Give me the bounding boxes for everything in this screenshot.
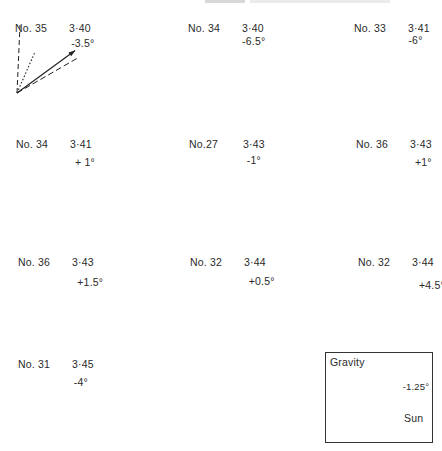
deviation-label: -6.5° xyxy=(242,35,265,47)
bee-number-label: No. 36 xyxy=(18,256,50,268)
deviation-label: -1° xyxy=(247,154,261,166)
time-label: 3·40 xyxy=(242,22,264,34)
arrowhead-icon xyxy=(68,51,75,57)
legend-box xyxy=(325,352,433,443)
bee-number-label: No. 35 xyxy=(15,22,47,34)
deviation-label: +0.5° xyxy=(249,275,275,287)
bee-number-label: No. 34 xyxy=(16,138,48,150)
bee-number-label: No. 32 xyxy=(190,256,222,268)
time-label: 3·44 xyxy=(412,256,434,268)
deviation-label: + 1° xyxy=(75,156,95,168)
time-label: 3·43 xyxy=(410,138,432,150)
time-label: 3·43 xyxy=(72,256,94,268)
deviation-label: -4° xyxy=(74,376,88,388)
page-bleed-mark xyxy=(250,0,390,3)
time-label: 3·43 xyxy=(243,138,265,150)
deviation-label: +1.5° xyxy=(77,276,103,288)
bee-number-label: No. 33 xyxy=(354,22,386,34)
deviation-label: -6° xyxy=(408,34,422,46)
deviation-label: +1° xyxy=(415,156,432,168)
time-label: 3·45 xyxy=(72,358,94,370)
deviation-label: -3.5° xyxy=(71,37,94,49)
page-bleed-mark xyxy=(205,0,245,3)
bee-number-label: No. 32 xyxy=(358,256,390,268)
time-label: 3·41 xyxy=(70,138,92,150)
bee-number-label: No. 36 xyxy=(356,138,388,150)
bee-number-label: No.27 xyxy=(189,138,218,150)
dance-arrow xyxy=(17,51,75,93)
time-label: 3·41 xyxy=(408,22,430,34)
bee-number-label: No. 31 xyxy=(18,358,50,370)
time-label: 3·40 xyxy=(69,22,91,34)
sun-direction-line xyxy=(17,58,78,93)
deviation-label: +4.5° xyxy=(419,279,442,291)
gravity-line xyxy=(17,25,20,93)
bee-number-label: No. 34 xyxy=(188,22,220,34)
time-label: 3·44 xyxy=(244,256,266,268)
